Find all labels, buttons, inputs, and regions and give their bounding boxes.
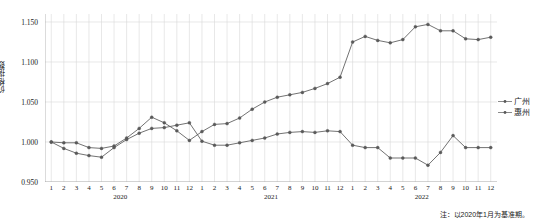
plot-area	[45, 14, 497, 182]
legend-marker-icon	[498, 98, 512, 105]
legend-item-guangzhou[interactable]: 广州	[498, 96, 530, 107]
legend-label-guangzhou: 广州	[514, 96, 530, 107]
y-axis-tick: 0.950	[4, 178, 38, 187]
chart-container: 价格指数 0.9501.0001.0501.1001.150 123456789…	[0, 0, 533, 222]
y-axis-tick: 1.150	[4, 18, 38, 27]
x-axis-year-label: 2020	[100, 193, 140, 201]
x-axis-year-label: 2022	[402, 193, 442, 201]
legend-label-huizhou: 惠州	[514, 107, 530, 118]
x-axis-tick: 12	[484, 184, 498, 192]
chart-note: 注：以2020年1月为基准期。	[440, 209, 529, 219]
legend-marker-icon	[498, 109, 512, 116]
legend-item-huizhou[interactable]: 惠州	[498, 107, 530, 118]
y-axis-tick: 1.000	[4, 138, 38, 147]
y-axis-tick: 1.100	[4, 58, 38, 67]
x-axis-year-label: 2021	[251, 193, 291, 201]
line-chart-svg	[45, 14, 497, 182]
y-axis-tick: 1.050	[4, 98, 38, 107]
legend: 广州 惠州	[498, 96, 530, 118]
